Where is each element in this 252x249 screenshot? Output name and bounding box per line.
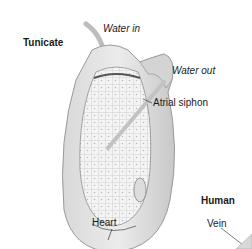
- atrial-siphon-label: Atrial siphon: [153, 98, 208, 108]
- heart-label: Heart: [92, 218, 116, 228]
- tunicate-title: Tunicate: [23, 38, 63, 48]
- water-out-label: Water out: [172, 66, 215, 76]
- vein-label: Vein: [207, 219, 226, 229]
- human-title: Human: [201, 196, 235, 206]
- water-in-label: Water in: [103, 24, 140, 34]
